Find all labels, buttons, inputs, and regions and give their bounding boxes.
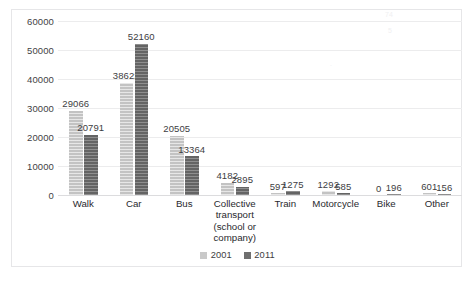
legend-swatch-icon (244, 252, 251, 259)
y-axis-tick-label: 10000 (12, 161, 54, 172)
legend-item-2001[interactable]: 2001 (200, 250, 232, 260)
bar-2011-car (135, 44, 149, 195)
y-axis-tick-label: 60000 (12, 16, 54, 27)
x-axis-tick-label-line: company) (205, 232, 266, 243)
y-axis-tick-label: 30000 (12, 103, 54, 114)
bar-2011-motorcycle (337, 193, 351, 195)
legend-item-2011[interactable]: 2011 (244, 250, 275, 260)
data-label: 20791 (77, 122, 104, 133)
data-label: 13364 (178, 144, 205, 155)
bar-2011-walk (84, 135, 98, 195)
bar-2001-car (120, 83, 134, 195)
bar-2011-other (438, 194, 452, 195)
data-label: 601 (421, 181, 437, 192)
data-label: 196 (386, 182, 402, 193)
data-label: 156 (436, 182, 452, 193)
data-label: 20505 (163, 123, 190, 134)
y-axis: 0100002000030000400005000060000 (12, 21, 54, 195)
data-label: 1275 (282, 179, 304, 190)
y-axis-tick-label: 50000 (12, 45, 54, 56)
bar-2001-motorcycle (322, 191, 336, 195)
bar-2011-train (286, 191, 300, 195)
data-label: 585 (335, 181, 351, 192)
y-axis-tick-label: 0 (12, 190, 54, 201)
bar-2011-bus (185, 156, 199, 195)
chart-figure: 0100002000030000400005000060000 29066207… (0, 0, 476, 293)
gridline (58, 21, 462, 22)
data-label: 29066 (62, 98, 89, 109)
y-axis-tick-label: 40000 (12, 74, 54, 85)
x-axis-tick-label-line: (school or (205, 221, 266, 232)
y-axis-tick-label: 20000 (12, 132, 54, 143)
data-label: 52160 (128, 31, 155, 42)
bar-2011-bike (387, 194, 401, 195)
data-label: 0 (376, 183, 381, 194)
bar-2001-train (271, 193, 285, 195)
legend-label: 2011 (254, 250, 274, 260)
chart-frame: 0100002000030000400005000060000 29066207… (11, 9, 462, 267)
bar-2001-other (423, 193, 437, 195)
data-label: 2895 (231, 174, 253, 185)
x-axis-tick-label-line: Other (405, 198, 470, 209)
x-axis-tick-label: Other (405, 198, 470, 209)
legend-swatch-icon (200, 252, 207, 259)
plot-area: 2906620791386225216020505133644182289559… (58, 21, 462, 195)
gridline (58, 195, 462, 196)
bar-2011-collective (236, 187, 250, 195)
legend-label: 2001 (211, 250, 232, 260)
gridline (58, 50, 462, 51)
chart-legend: 20012011 (12, 250, 463, 260)
x-axis-tick-label-line: transport (205, 209, 266, 220)
